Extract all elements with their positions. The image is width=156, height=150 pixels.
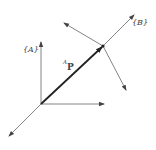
frames-diagram: {A} {B} A P bbox=[0, 0, 156, 150]
frame-a-z-axis bbox=[9, 104, 41, 136]
frame-a-label: {A} bbox=[23, 45, 39, 54]
frame-b-axes bbox=[64, 15, 134, 90]
frame-b-origin-dot bbox=[101, 44, 104, 47]
frame-b-axis-3 bbox=[103, 46, 126, 90]
position-vector-p bbox=[41, 47, 102, 104]
frame-b-axis-2 bbox=[64, 23, 103, 46]
vector-label: P bbox=[67, 62, 74, 72]
frame-b-label: {B} bbox=[132, 18, 148, 27]
frame-b-axis-1 bbox=[103, 15, 134, 46]
